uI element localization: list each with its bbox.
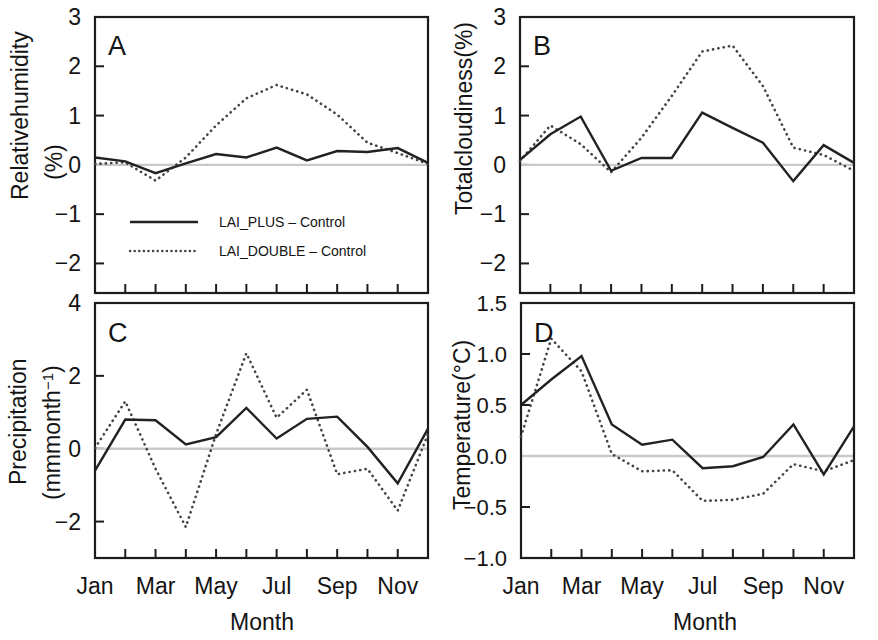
panel-b-ytick-labels: 3210−1−2	[480, 4, 506, 276]
ytick-label: 3	[68, 4, 81, 30]
xtick-label: Jul	[262, 573, 291, 599]
panel-d-xlabel: Month	[673, 609, 737, 635]
ytick-label: 1	[493, 103, 506, 129]
xtick-label: Jan	[76, 573, 113, 599]
panel-d-ylabel: Temperature(°C)	[449, 340, 475, 510]
xtick-label: Nov	[377, 573, 418, 599]
ytick-label: −1	[480, 201, 506, 227]
panel-c-series-lai-double	[95, 353, 428, 527]
legend-dotted-label: LAI_DOUBLE – Control	[219, 243, 366, 259]
panel-a-letter: A	[108, 31, 126, 61]
ytick-label: 2	[68, 53, 81, 79]
panel-a-ytick-labels: 3210−1−2	[55, 4, 81, 276]
panel-a-yaxis-title: Relativehumidity (%)	[7, 31, 67, 200]
ytick-label: 1.5	[476, 291, 507, 316]
xtick-label: Sep	[743, 573, 784, 599]
panel-d-xtick-labels: JanMarMayJulSepNov	[502, 573, 844, 599]
panel-a-series-lai-plus	[95, 148, 428, 174]
ytick-label: 2	[68, 363, 81, 389]
panel-c-frame	[95, 303, 428, 558]
panel-c-letter: C	[108, 318, 128, 348]
ytick-label: 0.0	[476, 444, 507, 469]
panel-d-frame	[521, 303, 854, 558]
ytick-label: 2	[493, 53, 506, 79]
ytick-label: −1	[55, 201, 81, 227]
panel-b-tickmarks	[520, 66, 824, 293]
panel-d: Temperature(°C) 1.51.00.50.0−0.5−1.0 Jan…	[440, 300, 878, 640]
ytick-label: 3	[493, 4, 506, 30]
xtick-label: Nov	[803, 573, 844, 599]
panel-b-ylabel: Totalcloudiness(%)	[451, 22, 477, 215]
panel-a-ylabel-line1: Relativehumidity	[7, 31, 33, 200]
panel-b-series-lai-plus	[520, 113, 854, 182]
panel-a: Relativehumidity (%) 3210−1−2 A LAI_PLUS…	[0, 0, 440, 320]
ytick-label: 0.5	[476, 393, 507, 418]
ytick-label: 0	[68, 152, 81, 178]
panel-a-legend: LAI_PLUS – Control LAI_DOUBLE – Control	[130, 214, 366, 259]
xtick-label: Mar	[136, 573, 176, 599]
panel-b-frame	[520, 17, 854, 293]
xtick-label: Jul	[688, 573, 717, 599]
ytick-label: −2	[480, 250, 506, 276]
legend-solid-label: LAI_PLUS – Control	[219, 214, 345, 230]
ytick-label: 1.0	[476, 342, 507, 367]
panel-a-ylabel-line2: (%)	[41, 144, 67, 180]
panel-c-ylabel-line1: Precipitation	[5, 358, 31, 485]
ytick-label: −0.5	[464, 495, 507, 520]
panel-b: Totalcloudiness(%) 3210−1−2 B	[440, 0, 878, 320]
ytick-label: −2	[55, 509, 81, 535]
panel-c-xlabel: Month	[230, 609, 294, 635]
ytick-label: 1	[68, 103, 81, 129]
ytick-label: −1.0	[464, 546, 507, 571]
ytick-label: 0	[493, 152, 506, 178]
xtick-label: May	[620, 573, 664, 599]
panel-c-yaxis-title: Precipitation (mmmonth−1)	[5, 358, 65, 500]
xtick-label: Jan	[502, 573, 539, 599]
panel-a-series-lai-double	[95, 85, 428, 181]
panel-c-ylabel-line2: (mmmonth−1)	[39, 365, 65, 500]
ytick-label: 4	[68, 290, 81, 316]
panel-c: Precipitation (mmmonth−1) 420−2 JanMarMa…	[0, 300, 440, 640]
ytick-label: −2	[55, 250, 81, 276]
panel-c-tickmarks	[95, 376, 398, 558]
panel-b-series-lai-double	[520, 46, 854, 173]
figure-root: Relativehumidity (%) 3210−1−2 A LAI_PLUS…	[0, 0, 878, 640]
xtick-label: Mar	[562, 573, 602, 599]
xtick-label: Sep	[317, 573, 358, 599]
ytick-label: 0	[68, 436, 81, 462]
panel-c-xtick-labels: JanMarMayJulSepNov	[76, 573, 418, 599]
xtick-label: May	[194, 573, 238, 599]
panel-b-letter: B	[533, 31, 551, 61]
